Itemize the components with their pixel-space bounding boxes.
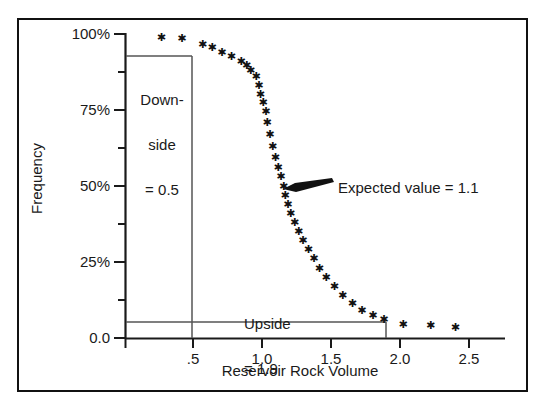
upside-line-1: Upside <box>244 316 314 331</box>
y-tick-label-100: 100% <box>58 25 110 42</box>
y-axis-title: Frequency <box>28 119 45 239</box>
upside-annotation: Upside = 1.9 <box>244 286 314 406</box>
y-tick-label-50: 50% <box>58 177 110 194</box>
expected-value-arrow-icon <box>283 178 334 192</box>
downside-line-1: Down- <box>133 92 191 107</box>
downside-annotation: Down- side = 0.5 <box>133 62 191 227</box>
y-tick-label-25: 25% <box>58 253 110 270</box>
expected-value-annotation: Expected value = 1.1 <box>338 180 479 195</box>
downside-line-2: side <box>133 137 191 152</box>
upside-line-2: = 1.9 <box>244 361 314 376</box>
y-axis-ticks <box>114 34 125 338</box>
chart-figure: 100% 75% 50% 25% 0.0 .5 1.0 1.5 2.0 2.5 … <box>0 0 547 412</box>
y-tick-label-75: 75% <box>58 101 110 118</box>
downside-line-3: = 0.5 <box>133 182 191 197</box>
x-tick-label-25: 2.5 <box>449 350 489 367</box>
y-tick-label-0: 0.0 <box>58 329 110 346</box>
